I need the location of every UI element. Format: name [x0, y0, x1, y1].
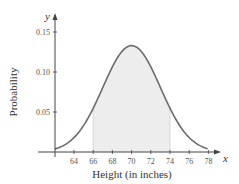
svg-text:64: 64 — [70, 157, 78, 166]
svg-text:78: 78 — [204, 157, 212, 166]
y-axis-variable: y — [44, 10, 50, 22]
shaded-area-66-74 — [93, 46, 170, 152]
svg-text:0.05: 0.05 — [36, 108, 50, 117]
y-axis-label: Probability — [7, 67, 19, 116]
x-axis-variable: x — [222, 152, 228, 164]
svg-text:70: 70 — [128, 157, 136, 166]
svg-text:66: 66 — [89, 157, 97, 166]
svg-text:72: 72 — [147, 157, 155, 166]
y-axis-ticks: 0.050.100.15 — [36, 28, 57, 117]
svg-text:76: 76 — [185, 157, 193, 166]
svg-text:0.15: 0.15 — [36, 28, 50, 37]
svg-text:68: 68 — [108, 157, 116, 166]
x-axis-label: Height (in inches) — [92, 168, 172, 181]
svg-text:0.10: 0.10 — [36, 68, 50, 77]
normal-distribution-chart: 6466687072747678 0.050.100.15 x y Height… — [0, 0, 239, 184]
svg-text:74: 74 — [166, 157, 174, 166]
